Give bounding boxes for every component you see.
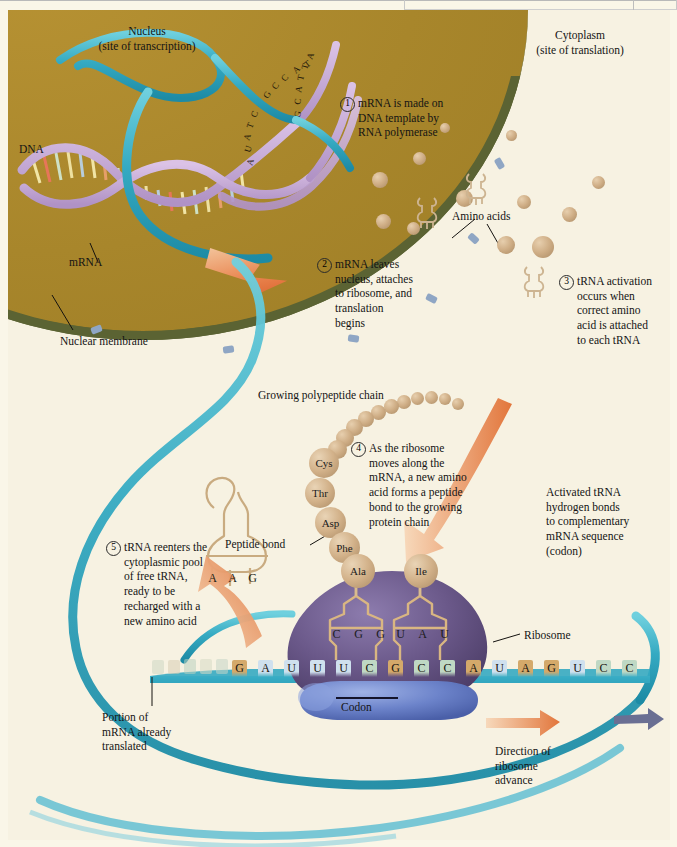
polypeptide-bead (425, 391, 438, 404)
mrna-base: C (362, 660, 377, 677)
step-3-line-5: to each tRNA (577, 333, 652, 348)
nucleus-label: Nucleus (site of transcription) (62, 24, 232, 53)
free-amino-acid (562, 207, 577, 222)
step-2-text: mRNA leaves nucleus, attaches to ribosom… (335, 257, 413, 331)
activated-trna-line-5: (codon) (546, 544, 671, 559)
polypeptide-residue-thr: Thr (305, 478, 335, 508)
step-5-line-4: ready to be (124, 584, 207, 599)
svg-text:C: C (249, 109, 261, 118)
svg-text:A: A (293, 85, 304, 94)
svg-text:C: C (269, 80, 281, 91)
free-amino-acid (372, 172, 388, 188)
free-amino-acid (506, 130, 517, 141)
step-4-line-4: acid forms a peptide (369, 485, 467, 500)
portion-translated-label: Portion of mRNA already translated (102, 710, 212, 754)
step-5-number: 5 (106, 541, 121, 556)
activated-trna-line-2: hydrogen bonds (546, 500, 671, 515)
svg-text:U: U (242, 144, 254, 154)
direction-label: Direction of ribosome advance (495, 744, 605, 788)
trna-anticodon-base: G (351, 626, 366, 643)
mrna-base: A (518, 660, 533, 677)
step-4-line-2: moves along the (369, 456, 467, 471)
free-amino-acid (592, 176, 605, 189)
cytoplasm-label-title: Cytoplasm (500, 28, 660, 43)
step-5-text: tRNA reenters the cytoplasmic pool of fr… (124, 540, 207, 628)
trna-anticodon-base: G (373, 626, 388, 643)
activated-trna-line-4: mRNA sequence (546, 529, 671, 544)
codon-bracket (336, 697, 398, 699)
cytoplasm-label-sub: (site of translation) (500, 43, 660, 58)
incoming-residue-ile: Ile (404, 554, 438, 588)
activated-trna-line-3: to complementary (546, 514, 671, 529)
polypeptide-bead (397, 395, 411, 409)
portion-translated-line-3: translated (102, 739, 212, 754)
step-5-line-2: cytoplasmic pool (124, 555, 207, 570)
trna-anticodon-base: C (329, 626, 344, 643)
mrna-base: U (310, 660, 325, 677)
ribosome-label: Ribosome (524, 628, 571, 643)
activated-trna-label: Activated tRNA hydrogen bonds to complem… (546, 485, 671, 559)
polypeptide-bead (384, 399, 399, 414)
free-amino-acid (376, 214, 391, 229)
mrna-base: G (388, 660, 403, 677)
free-trna-anticodon-base: A (205, 570, 220, 587)
step-2-line-5: begins (335, 316, 413, 331)
step-3-line-4: acid is attached (577, 318, 652, 333)
step-2-line-4: translation (335, 301, 413, 316)
step-3-number: 3 (559, 275, 574, 290)
free-trna-icon (414, 196, 440, 230)
mrna-base: U (284, 660, 299, 677)
step-5-line-6: new amino acid (124, 614, 207, 629)
step-2: 2 mRNA leaves nucleus, attaches to ribos… (317, 257, 437, 331)
free-amino-acid (517, 195, 531, 209)
mrna-base: C (596, 660, 611, 677)
svg-text:C: C (279, 72, 291, 83)
svg-text:G: G (261, 89, 273, 100)
free-amino-acid (440, 123, 450, 133)
step-3-text: tRNA activation occurs when correct amin… (577, 274, 652, 348)
free-amino-acid (497, 236, 515, 254)
portion-translated-line-2: mRNA already (102, 725, 212, 740)
free-trna-icon (463, 172, 489, 206)
nucleus-label-sub: (site of transcription) (62, 39, 232, 54)
mrna-base: A (466, 660, 481, 677)
cytoplasm-label: Cytoplasm (site of translation) (500, 28, 660, 57)
mrna-base: C (440, 660, 455, 677)
step-2-line-1: mRNA leaves (335, 257, 413, 272)
mrna-base: G (232, 660, 247, 677)
mrna-base: U (336, 660, 351, 677)
direction-line-3: advance (495, 773, 605, 788)
step-1-number: 1 (340, 97, 355, 112)
step-3-line-2: occurs when (577, 289, 652, 304)
free-trna-anticodon-base: A (225, 570, 240, 587)
growing-polypeptide-label: Growing polypeptide chain (258, 388, 384, 403)
step-1-line-3: RNA polymerase (358, 125, 443, 140)
step-4-number: 4 (351, 442, 366, 457)
mrna-base: U (570, 660, 585, 677)
activated-trna-amino-acid (532, 236, 554, 258)
mrna-label: mRNA (69, 255, 102, 270)
activated-trna-line-1: Activated tRNA (546, 485, 671, 500)
nucleus-label-title: Nucleus (62, 24, 232, 39)
direction-line-2: ribosome (495, 759, 605, 774)
portion-translated-line-1: Portion of (102, 710, 212, 725)
mrna-base: C (622, 660, 637, 677)
amino-acids-label: Amino acids (452, 209, 510, 224)
step-3-line-3: correct amino (577, 303, 652, 318)
step-2-line-2: nucleus, attaches (335, 272, 413, 287)
polypeptide-bead (439, 393, 451, 405)
step-3: 3 tRNA activation occurs when correct am… (559, 274, 671, 348)
free-amino-acid (413, 152, 426, 165)
polypeptide-bead (452, 398, 464, 410)
step-1-line-1: mRNA is made on (358, 96, 443, 111)
svg-text:C: C (292, 98, 303, 106)
step-1: 1 mRNA is made on DNA template by RNA po… (340, 96, 480, 140)
step-1-text: mRNA is made on DNA template by RNA poly… (358, 96, 443, 140)
trna-anticodon-base: U (393, 626, 408, 643)
mrna-base: U (492, 660, 507, 677)
step-2-line-3: to ribosome, and (335, 286, 413, 301)
svg-text:A: A (241, 132, 253, 142)
arrow-ribosome-direction (486, 710, 560, 736)
codon-label: Codon (341, 700, 372, 715)
peptide-bond-label: Peptide bond (225, 537, 285, 552)
